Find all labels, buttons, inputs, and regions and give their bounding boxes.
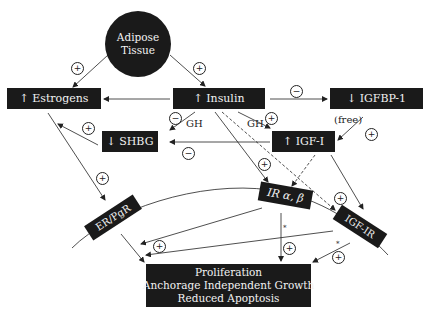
gh-label-left: GH bbox=[186, 118, 203, 129]
plus-sign-estrogens-erpgr: + bbox=[96, 172, 109, 185]
plus-sign-igf1r-outcome: + bbox=[332, 251, 345, 264]
plus-sign-adipose-insulin: + bbox=[193, 62, 206, 75]
shbg-node: ↓ SHBG bbox=[102, 131, 158, 152]
outcome-line1: Proliferation bbox=[195, 266, 262, 279]
star-mark-igf1r: * bbox=[336, 240, 340, 248]
gh-label-right: GH bbox=[247, 118, 264, 129]
adipose-line1: Adipose bbox=[117, 31, 159, 44]
igfbp1-node: ↓ IGFBP-1 bbox=[330, 88, 423, 109]
insulin-node: ↑ Insulin bbox=[173, 88, 265, 109]
estrogens-node: ↑ Estrogens bbox=[7, 88, 101, 109]
plus-sign-shbg-estrogens: + bbox=[82, 122, 95, 135]
outcome-node: Proliferation Anchorage Independent Grow… bbox=[146, 264, 311, 307]
plus-sign-adipose-estrogens: + bbox=[71, 62, 84, 75]
plus-sign-igfbp1-igf1: + bbox=[365, 128, 378, 141]
plus-sign-receptors-erpgr: + bbox=[153, 240, 166, 253]
free-label: (free) bbox=[334, 114, 362, 125]
plus-sign-dashed-igf1r: + bbox=[334, 192, 347, 205]
plus-sign-insulin-igf1: + bbox=[265, 112, 278, 125]
plus-sign-ir-outcome: + bbox=[283, 242, 296, 255]
outcome-line3: Reduced Apoptosis bbox=[178, 292, 280, 305]
minus-sign-insulin-igfbp1: − bbox=[290, 85, 303, 98]
adipose-line2: Tissue bbox=[121, 44, 155, 57]
igf1-node: ↑ IGF-I bbox=[272, 131, 335, 152]
plus-sign-insulin-ir: + bbox=[258, 158, 271, 171]
minus-sign-insulin-shbg: − bbox=[169, 112, 182, 125]
minus-sign-igf1-shbg: − bbox=[182, 147, 195, 160]
adipose-tissue-node: Adipose Tissue bbox=[105, 11, 171, 77]
outcome-line2: Anchorage Independent Growth bbox=[143, 279, 314, 292]
star-mark-ir: * bbox=[283, 224, 287, 232]
